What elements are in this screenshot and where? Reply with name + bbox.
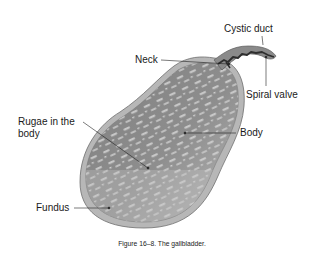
label-neck: Neck xyxy=(135,54,158,65)
rugae-texture xyxy=(80,56,250,231)
gallbladder-illustration xyxy=(0,0,324,255)
label-spiral-valve: Spiral valve xyxy=(246,89,298,100)
label-cystic-duct: Cystic duct xyxy=(224,23,273,34)
gallbladder-figure: Cystic duct Neck Spiral valve Rugae in t… xyxy=(0,0,324,255)
label-fundus: Fundus xyxy=(36,202,69,213)
cystic-duct-shape xyxy=(214,46,276,70)
label-body: Body xyxy=(240,127,263,138)
label-rugae-line1: Rugae in the xyxy=(18,116,75,127)
figure-caption: Figure 16–8. The gallbladder. xyxy=(16,239,308,248)
label-rugae-line2: body xyxy=(18,128,40,139)
